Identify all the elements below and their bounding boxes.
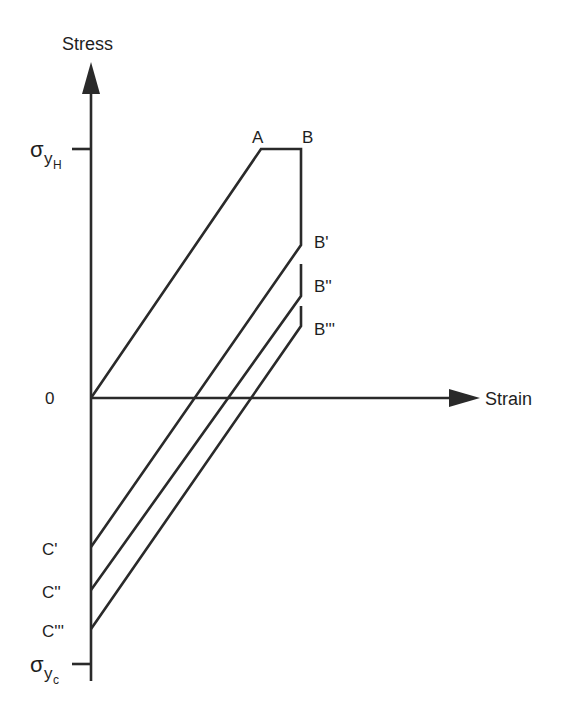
stress-axis-arrow-icon [82, 62, 100, 94]
loading-path-tertiary [91, 306, 301, 629]
point-b-label: B [302, 128, 313, 147]
point-b3-label: B''' [314, 320, 335, 339]
strain-axis-arrow-icon [449, 389, 480, 407]
sigma-yh-sub-h: H [53, 158, 62, 172]
origin-label: 0 [45, 389, 54, 408]
sigma-yh-label: σ [30, 137, 44, 162]
loading-path-secondary [91, 264, 301, 590]
strain-axis-label: Strain [485, 389, 532, 409]
point-c3-label: C''' [42, 622, 64, 641]
sigma-yc-label: σ [30, 652, 44, 677]
sigma-yh-sub-y: y [44, 149, 53, 168]
sigma-yc-sub-c: c [53, 673, 59, 687]
point-a-label: A [252, 128, 264, 147]
stress-axis-label: Stress [62, 34, 113, 54]
point-b2-label: B'' [314, 277, 332, 296]
point-c1-label: C' [42, 540, 58, 559]
stress-strain-diagram: Stress Strain 0 σ y H σ y c A B B' B'' B… [0, 0, 566, 718]
loading-path-primary [91, 149, 301, 547]
point-c2-label: C'' [42, 583, 61, 602]
point-b1-label: B' [314, 233, 329, 252]
sigma-yc-sub-y: y [44, 664, 53, 683]
